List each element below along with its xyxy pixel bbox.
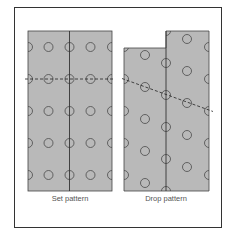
drop-pattern-panel (120, 27, 214, 196)
set-pattern-panel (24, 31, 117, 191)
set-pattern-label: Set pattern (25, 194, 115, 203)
drop-pattern-label: Drop pattern (121, 194, 211, 203)
